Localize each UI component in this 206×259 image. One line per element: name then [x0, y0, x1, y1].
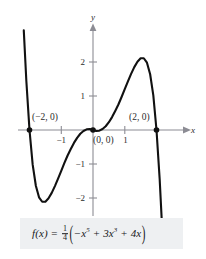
formula-operator-2: +	[120, 227, 128, 239]
y-axis-label: y	[90, 12, 95, 22]
formula-operator-1: +	[93, 227, 101, 239]
formula-expression: f(x) = 1 4 (−x5 + 3x3 + 4x)	[32, 225, 146, 243]
formula-close-paren: )	[142, 221, 146, 244]
formula-coefficient-fraction: 1 4	[62, 225, 68, 243]
formula-term-1: −x	[74, 227, 87, 239]
point-label-plus2: (2, 0)	[129, 112, 150, 123]
x-tick-label-1: 1	[123, 135, 128, 145]
formula-function-name: f(x)	[32, 227, 48, 239]
point-label-minus2: (−2, 0)	[32, 112, 58, 123]
y-tick-label--1: −1	[75, 159, 85, 169]
root-dot-origin	[90, 127, 96, 133]
root-dot-plus2	[154, 127, 160, 133]
formula-term-1-exponent: 5	[86, 226, 90, 234]
formula-term-2-exponent: 3	[114, 226, 118, 234]
y-tick-label-1: 1	[81, 91, 86, 101]
formula-open-paren: (	[70, 221, 74, 244]
formula-caption-box: f(x) = 1 4 (−x5 + 3x3 + 4x)	[20, 218, 183, 249]
x-tick-label--1: −1	[57, 135, 67, 145]
y-tick-label-2: 2	[81, 57, 86, 67]
y-axis-arrow	[90, 24, 97, 32]
point-label-origin: (0, 0)	[93, 135, 114, 146]
x-axis-label: x	[190, 125, 195, 135]
x-axis-arrow	[183, 127, 191, 134]
formula-coefficient-denominator: 4	[62, 233, 68, 242]
formula-equals: =	[51, 227, 59, 239]
formula-coefficient-numerator: 1	[62, 225, 68, 233]
figure-root: x y −1 1 2 1 −1 −2 (−2, 0) (0, 0) (2, 0)…	[0, 0, 206, 259]
formula-term-2: 3x	[103, 227, 114, 239]
y-tick-label--2: −2	[75, 193, 85, 203]
formula-term-3: 4x	[131, 227, 142, 239]
root-dot-minus2	[27, 127, 33, 133]
